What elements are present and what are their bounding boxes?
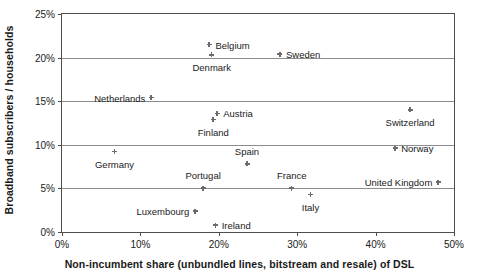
data-point-marker bbox=[289, 186, 294, 191]
y-tick-mark bbox=[58, 145, 62, 146]
data-point-marker bbox=[215, 111, 220, 116]
x-tick-mark bbox=[297, 232, 298, 236]
data-point-marker bbox=[436, 180, 441, 185]
y-axis-title: Broadband subscribers / households bbox=[0, 0, 18, 240]
y-tick-mark bbox=[58, 58, 62, 59]
data-point-label: Italy bbox=[302, 202, 319, 213]
plot-area: 0%5%10%15%20%25%0%10%20%30%40%50%Belgium… bbox=[61, 13, 455, 233]
data-point-label: United Kingdom bbox=[365, 177, 433, 188]
data-point-label: Belgium bbox=[215, 39, 249, 50]
y-tick-label: 0% bbox=[41, 227, 55, 238]
x-tick-label: 30% bbox=[287, 239, 307, 250]
y-tick-label: 25% bbox=[35, 9, 55, 20]
data-point-marker bbox=[149, 95, 154, 100]
x-tick-label: 0% bbox=[55, 239, 69, 250]
x-axis-title: Non-incumbent share (unbundled lines, bi… bbox=[0, 258, 479, 270]
data-point-marker bbox=[245, 161, 250, 166]
data-point-label: Finland bbox=[198, 127, 229, 138]
x-axis-title-text: Non-incumbent share (unbundled lines, bi… bbox=[65, 258, 415, 270]
scatter-chart: Broadband subscribers / households 0%5%1… bbox=[0, 0, 479, 277]
data-point-label: Netherlands bbox=[94, 92, 145, 103]
y-axis-title-text: Broadband subscribers / households bbox=[3, 26, 15, 215]
x-tick-label: 40% bbox=[366, 239, 386, 250]
data-point-marker bbox=[193, 209, 198, 214]
y-tick-label: 20% bbox=[35, 52, 55, 63]
x-tick-label: 50% bbox=[444, 239, 464, 250]
data-point-label: France bbox=[277, 170, 307, 181]
y-tick-mark bbox=[58, 101, 62, 102]
x-tick-mark bbox=[376, 232, 377, 236]
x-tick-mark bbox=[219, 232, 220, 236]
data-point-label: Norway bbox=[401, 143, 433, 154]
data-point-label: Switzerland bbox=[386, 117, 435, 128]
x-tick-mark bbox=[140, 232, 141, 236]
data-point-label: Germany bbox=[95, 159, 134, 170]
data-point-marker bbox=[393, 146, 398, 151]
y-tick-label: 5% bbox=[41, 183, 55, 194]
gridline-y bbox=[62, 58, 454, 59]
x-tick-label: 10% bbox=[130, 239, 150, 250]
data-point-marker bbox=[213, 223, 218, 228]
data-point-marker bbox=[308, 192, 313, 197]
data-point-marker bbox=[112, 149, 117, 154]
x-tick-label: 20% bbox=[209, 239, 229, 250]
gridline-y bbox=[62, 188, 454, 189]
y-tick-label: 15% bbox=[35, 96, 55, 107]
data-point-marker bbox=[209, 52, 214, 57]
data-point-label: Austria bbox=[223, 108, 253, 119]
data-point-label: Spain bbox=[235, 146, 259, 157]
data-point-marker bbox=[211, 117, 216, 122]
y-tick-mark bbox=[58, 14, 62, 15]
data-point-label: Denmark bbox=[192, 62, 231, 73]
y-tick-label: 10% bbox=[35, 139, 55, 150]
data-point-label: Ireland bbox=[222, 220, 251, 231]
data-point-label: Portugal bbox=[185, 170, 220, 181]
data-point-marker bbox=[277, 52, 282, 57]
data-point-label: Luxembourg bbox=[136, 206, 189, 217]
data-point-marker bbox=[201, 186, 206, 191]
data-point-marker bbox=[207, 42, 212, 47]
y-tick-mark bbox=[58, 188, 62, 189]
data-point-label: Sweden bbox=[286, 49, 320, 60]
x-tick-mark bbox=[62, 232, 63, 236]
x-tick-mark bbox=[454, 232, 455, 236]
data-point-marker bbox=[408, 107, 413, 112]
